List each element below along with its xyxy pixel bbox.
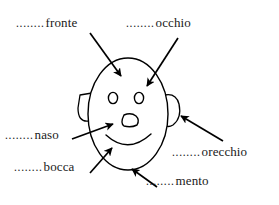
face-drawing bbox=[0, 0, 279, 205]
dot-leader: ........ bbox=[146, 175, 175, 187]
face-diagram-page: ........fronte ........occhio ........na… bbox=[0, 0, 279, 205]
label-naso-text: naso bbox=[35, 127, 59, 142]
label-naso: ........naso bbox=[5, 128, 59, 142]
dot-leader: ........ bbox=[172, 146, 201, 158]
nose-shape bbox=[122, 114, 138, 127]
arrow-occhio bbox=[147, 38, 178, 86]
dot-leader: ........ bbox=[14, 161, 43, 173]
label-fronte-text: fronte bbox=[46, 15, 78, 30]
dot-leader: ........ bbox=[126, 17, 155, 29]
label-occhio-text: occhio bbox=[156, 15, 191, 30]
label-bocca-text: bocca bbox=[44, 159, 75, 174]
label-occhio: ........occhio bbox=[126, 16, 191, 30]
label-orecchio: ........orecchio bbox=[172, 145, 247, 159]
right-eye bbox=[134, 92, 143, 103]
label-fronte: ........fronte bbox=[16, 16, 77, 30]
dot-leader: ........ bbox=[5, 129, 34, 141]
label-bocca: ........bocca bbox=[14, 160, 74, 174]
label-orecchio-text: orecchio bbox=[202, 144, 248, 159]
label-mento: ........mento bbox=[146, 174, 209, 188]
left-eye bbox=[108, 92, 117, 103]
dot-leader: ........ bbox=[16, 17, 45, 29]
label-mento-text: mento bbox=[176, 173, 209, 188]
arrow-orecchio bbox=[181, 116, 223, 141]
